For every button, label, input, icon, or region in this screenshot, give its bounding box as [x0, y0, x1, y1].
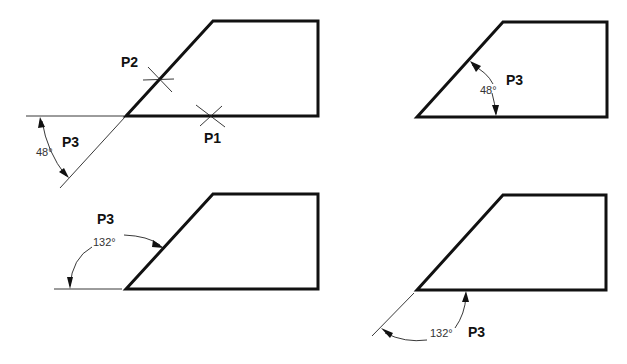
- dimension-arc: [70, 247, 92, 286]
- point-label-p3: P3: [506, 72, 523, 88]
- panel-top-left: 48° P3 P2 P1: [26, 21, 318, 188]
- extension-line: [60, 117, 125, 188]
- extension-line: [372, 293, 414, 336]
- trapezoid-shape: [417, 195, 606, 290]
- arrowhead-icon: [381, 328, 393, 338]
- point-label-p3: P3: [62, 134, 79, 150]
- point-label-p3: P3: [97, 211, 114, 227]
- trapezoid-shape: [417, 22, 607, 117]
- angle-dimension-diagram: 48° P3 P2 P1 48° P3 132° P3: [0, 0, 627, 364]
- angle-value: 48°: [36, 146, 53, 158]
- arrowhead-icon: [59, 168, 69, 178]
- arrowhead-icon: [470, 61, 481, 72]
- panel-top-right: 48° P3: [417, 22, 607, 117]
- point-label-p3: P3: [468, 324, 485, 340]
- arrowhead-icon: [67, 277, 73, 289]
- arrowhead-icon: [38, 117, 45, 128]
- panel-bottom-right: 132° P3: [372, 195, 606, 341]
- arrowhead-icon: [492, 105, 499, 116]
- pick-mark-icon: [143, 79, 174, 80]
- panel-bottom-left: 132° P3: [54, 194, 318, 289]
- arrowhead-icon: [152, 240, 164, 248]
- point-label-p1: P1: [204, 130, 221, 146]
- angle-value: 132°: [93, 236, 116, 248]
- angle-value: 132°: [430, 327, 453, 339]
- arrowhead-icon: [462, 291, 469, 302]
- trapezoid-shape: [126, 21, 318, 116]
- point-label-p2: P2: [121, 54, 138, 70]
- angle-value: 48°: [480, 84, 497, 96]
